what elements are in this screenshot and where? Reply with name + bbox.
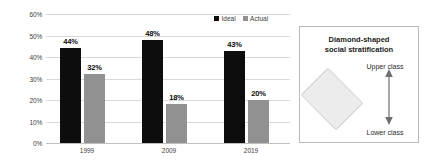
y-axis-tick: 0% [33,140,42,147]
legend-label-ideal: Ideal [222,15,236,22]
bar-value-label: 43% [215,40,255,49]
lower-class-label: Lower class [354,129,416,136]
y-axis-tick: 20% [30,97,42,104]
x-axis-tick-2019: 2019 [210,147,292,154]
bar-value-label: 48% [133,29,173,38]
bar-value-label: 32% [75,63,115,72]
bar-actual-2019[interactable] [248,100,269,143]
response-rate-bar-chart: Response rate 0%10%20%30%40%50%60% 44%32… [0,0,296,167]
upper-class-label: Upper class [354,63,416,70]
bar-actual-2009[interactable] [166,104,187,143]
bar-value-label: 20% [239,89,279,98]
y-axis-tick: 40% [30,54,42,61]
x-axis-line [46,143,290,144]
y-axis-tick-labels: 0%10%20%30%40%50%60% [0,0,46,129]
y-axis-tick: 30% [30,75,42,82]
y-axis-tick: 50% [30,32,42,39]
bar-actual-1999[interactable] [84,74,105,143]
double-headed-arrow-icon [378,69,400,125]
panel-title: Diamond-shaped social stratification [300,35,418,55]
chart-legend: Ideal Actual [214,15,268,22]
gray-square-marker [243,16,248,21]
panel-title-line2: social stratification [300,45,418,55]
bar-ideal-2009[interactable] [142,40,163,143]
bar-group: 44%32% [46,14,128,143]
legend-item-actual: Actual [243,15,269,22]
arrow-svg [378,69,400,125]
x-axis-tick-1999: 1999 [46,147,128,154]
chart-figure: Response rate 0%10%20%30%40%50%60% 44%32… [0,0,424,167]
x-axis-tick-2009: 2009 [128,147,210,154]
social-stratification-panel: Diamond-shaped social stratification Upp… [299,26,419,143]
bar-value-label: 44% [51,37,91,46]
bar-group: 48%18% [128,14,210,143]
legend-label-actual: Actual [250,15,268,22]
diamond-shape-icon [301,68,364,131]
bar-value-label: 18% [157,93,197,102]
y-axis-tick: 10% [30,118,42,125]
plot-area: 44%32%48%18%43%20% [46,14,290,143]
black-square-marker [214,16,219,21]
legend-item-ideal: Ideal [214,15,236,22]
bar-group: 43%20% [210,14,292,143]
y-axis-tick: 60% [30,11,42,18]
panel-title-line1: Diamond-shaped [300,35,418,45]
